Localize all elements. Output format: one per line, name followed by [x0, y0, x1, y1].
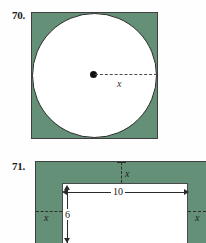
left-border-dashed-line	[36, 211, 62, 212]
width-label-10: 10	[111, 186, 125, 197]
radius-label-x: x	[117, 78, 121, 89]
height-arrow-bottom-icon	[64, 238, 70, 243]
top-border-tick-mark	[117, 162, 126, 163]
top-border-label-x: x	[125, 168, 129, 179]
right-border-label-x: x	[195, 212, 199, 223]
textbook-figure-page: 70. x 71. x x x 10 6	[0, 0, 206, 243]
height-arrow-top-icon	[64, 185, 70, 190]
radius-dashed-line	[95, 74, 157, 75]
problem-number-71: 71.	[12, 160, 25, 172]
figure-70-circle-in-square: x	[31, 12, 158, 139]
problem-number-70: 70.	[12, 9, 25, 21]
top-border-dashed-line	[121, 162, 122, 183]
figure-71-bordered-rectangle: x x x 10 6	[35, 161, 206, 243]
width-dimension-line	[64, 192, 186, 193]
height-label-6: 6	[63, 209, 72, 220]
left-border-label-x: x	[44, 212, 48, 223]
width-arrow-right-icon	[184, 189, 189, 195]
